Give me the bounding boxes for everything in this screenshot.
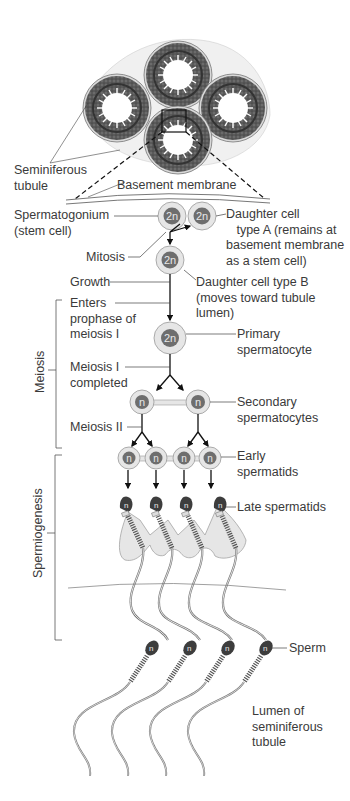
tubule-cluster bbox=[83, 39, 270, 174]
label-mitosis: Mitosis bbox=[86, 250, 125, 266]
ploidy-label: n bbox=[154, 501, 158, 510]
label-enters-prophase: Enters prophase of meiosis I bbox=[70, 296, 136, 343]
ploidy-label: n bbox=[184, 501, 188, 510]
label-sperm: Sperm bbox=[289, 641, 326, 657]
ploidy-label: n bbox=[149, 644, 153, 653]
ploidy-label: n bbox=[187, 644, 191, 653]
ploidy-label: n bbox=[126, 453, 132, 464]
cell-primary-spermatocyte: 2n bbox=[154, 322, 186, 354]
cell-daughter-a: 2n bbox=[188, 202, 216, 230]
label-basement-membrane: Basement membrane bbox=[117, 178, 237, 194]
ploidy-label: 2n bbox=[196, 210, 208, 222]
sperm-cells: n n n n bbox=[74, 638, 276, 776]
label-secondary-spermatocytes: Secondary spermatocytes bbox=[237, 395, 318, 426]
ploidy-label: n bbox=[139, 396, 145, 408]
label-seminiferous-tubule: Seminiferous tubule bbox=[14, 163, 87, 194]
ploidy-label: n bbox=[225, 644, 229, 653]
tubule-left bbox=[83, 74, 151, 142]
ploidy-label: n bbox=[195, 396, 201, 408]
label-meiosis-ii: Meiosis II bbox=[70, 420, 123, 436]
label-spermatogonium: Spermatogonium (stem cell) bbox=[14, 208, 109, 239]
spermatogenesis-figure: 2n 2n 2n 2n n n bbox=[0, 0, 350, 801]
lumen-boundary bbox=[68, 583, 286, 590]
tubule-bottom bbox=[144, 106, 212, 174]
brackets bbox=[47, 300, 62, 640]
ploidy-label: n bbox=[181, 453, 187, 464]
bracket-label-spermiogenesis: Spermiogenesis bbox=[31, 488, 45, 578]
ploidy-label: n bbox=[153, 453, 159, 464]
label-early-spermatids: Early spermatids bbox=[237, 449, 298, 480]
label-daughter-cell-b: Daughter cell type B (moves toward tubul… bbox=[196, 275, 316, 322]
ploidy-label: n bbox=[218, 501, 222, 510]
cell-secondary-spermatocytes: n n bbox=[130, 390, 210, 414]
label-primary-spermatocyte: Primary spermatocyte bbox=[237, 327, 312, 358]
spermiogenesis-arrows bbox=[128, 470, 211, 488]
ploidy-label: n bbox=[263, 644, 267, 653]
cell-daughter-b: 2n bbox=[156, 246, 184, 274]
meiosis-i-arrows bbox=[157, 354, 183, 390]
ploidy-label: 2n bbox=[164, 254, 176, 266]
label-daughter-cell-a: Daughter cell type A (remains at basemen… bbox=[226, 207, 344, 269]
label-lumen: Lumen of seminiferous tubule bbox=[252, 704, 323, 751]
bracket-label-meiosis: Meiosis bbox=[33, 351, 47, 393]
label-late-spermatids: Late spermatids bbox=[237, 500, 326, 516]
meiosis-ii-arrows bbox=[132, 414, 208, 446]
label-growth: Growth bbox=[70, 275, 110, 291]
late-spermatids: n n n n bbox=[120, 496, 266, 640]
ploidy-label: 2n bbox=[166, 210, 178, 222]
ploidy-label: 2n bbox=[164, 332, 176, 344]
ploidy-label: n bbox=[207, 453, 213, 464]
ploidy-label: n bbox=[124, 501, 128, 510]
cell-early-spermatids: n n n n bbox=[118, 447, 221, 469]
cell-spermatogonium: 2n bbox=[158, 202, 186, 230]
label-meiosis-i-completed: Meiosis I completed bbox=[70, 360, 128, 391]
